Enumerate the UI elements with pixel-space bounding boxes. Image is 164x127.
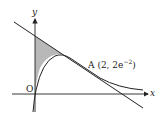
point-a-close: ) bbox=[132, 60, 136, 70]
x-axis-label: x bbox=[150, 89, 155, 98]
point-a-coords: (2, 2e bbox=[97, 60, 123, 70]
point-a-label: A (2, 2e−2) bbox=[88, 59, 136, 70]
diagram-canvas bbox=[0, 0, 164, 127]
point-a-name: A bbox=[88, 60, 95, 70]
point-a-exponent: −2 bbox=[123, 58, 132, 65]
origin-label: O bbox=[26, 85, 33, 94]
y-axis-label: y bbox=[32, 8, 37, 17]
